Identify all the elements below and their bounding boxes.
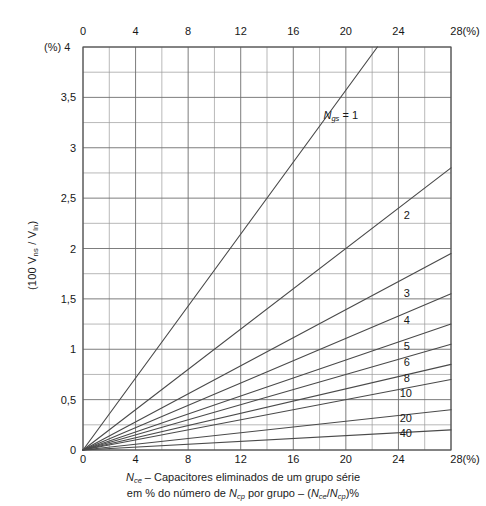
curve-label-5: 5 bbox=[404, 340, 410, 352]
x-tick-20: 20 bbox=[340, 25, 352, 37]
curve-label-8: 8 bbox=[404, 372, 410, 384]
y-tick-3: 3 bbox=[48, 142, 76, 154]
curve-label-3: 3 bbox=[404, 287, 410, 299]
grid-minor-lines bbox=[83, 47, 451, 450]
x-tick-16: 16 bbox=[287, 25, 299, 37]
x-axis-caption: Nce – Capacitores eliminados de um grupo… bbox=[0, 470, 486, 502]
y-tick-0,5: 0,5 bbox=[48, 394, 76, 406]
curve-lines bbox=[83, 47, 451, 450]
curve-4 bbox=[83, 294, 451, 450]
curve-label-6: 6 bbox=[404, 356, 410, 368]
x-tick-4: 4 bbox=[133, 453, 139, 465]
x-tick-8: 8 bbox=[185, 453, 191, 465]
x-tick-28: 28(%) bbox=[450, 25, 479, 37]
curve-label-4: 4 bbox=[404, 314, 410, 326]
curve-label-10: 10 bbox=[400, 387, 412, 399]
curve-20 bbox=[83, 410, 451, 450]
grid-major-lines bbox=[83, 47, 451, 450]
x-tick-4: 4 bbox=[133, 25, 139, 37]
curve-label-2: 2 bbox=[404, 209, 410, 221]
y-tick-1,5: 1,5 bbox=[48, 293, 76, 305]
curve-label-20: 20 bbox=[400, 412, 412, 424]
x-tick-16: 16 bbox=[287, 453, 299, 465]
y-axis-title-text: (100 Vns / Vln) bbox=[26, 221, 38, 290]
curve-3 bbox=[83, 254, 451, 450]
plot-frame bbox=[83, 47, 451, 450]
y-tick-0: 0 bbox=[48, 444, 76, 456]
y-tick-2,5: 2,5 bbox=[48, 192, 76, 204]
curve-label-1: Ngs = 1 bbox=[324, 109, 359, 121]
curve-10 bbox=[83, 379, 451, 450]
y-tick-2: 2 bbox=[48, 243, 76, 255]
y-axis-unit-label: (%) 4 bbox=[44, 41, 70, 53]
y-tick-1: 1 bbox=[48, 343, 76, 355]
curve-8 bbox=[83, 364, 451, 450]
x-tick-24: 24 bbox=[392, 25, 404, 37]
curve-2 bbox=[83, 168, 451, 450]
x-tick-24: 24 bbox=[392, 453, 404, 465]
curve-1 bbox=[83, 47, 377, 450]
caption-line-2: em % do número de Ncp por grupo – (Nce/N… bbox=[0, 486, 486, 502]
caption-line-1: Nce – Capacitores eliminados de um grupo… bbox=[0, 470, 486, 486]
curve-5 bbox=[83, 324, 451, 450]
chart-figure: 0481216202428(%) (%) 4 (100 Vns / Vln) 0… bbox=[0, 0, 486, 506]
curve-6 bbox=[83, 344, 451, 450]
x-tick-20: 20 bbox=[340, 453, 352, 465]
x-tick-28: 28(%) bbox=[450, 453, 479, 465]
x-tick-12: 12 bbox=[235, 25, 247, 37]
x-tick-0: 0 bbox=[80, 453, 86, 465]
x-tick-0: 0 bbox=[80, 25, 86, 37]
curve-40 bbox=[83, 430, 451, 450]
y-axis-title: (100 Vns / Vln) bbox=[26, 221, 38, 290]
x-tick-12: 12 bbox=[235, 453, 247, 465]
y-tick-3,5: 3,5 bbox=[48, 91, 76, 103]
curve-label-40: 40 bbox=[400, 427, 412, 439]
x-tick-8: 8 bbox=[185, 25, 191, 37]
